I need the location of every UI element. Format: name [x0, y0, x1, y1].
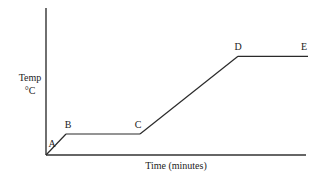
- point-label-b: B: [65, 119, 72, 130]
- x-axis-label: Time (minutes): [145, 160, 207, 172]
- point-label-c: C: [135, 119, 142, 130]
- segment-c-d: [140, 56, 238, 134]
- point-label-a: A: [48, 138, 56, 149]
- y-axis-label-line-1: Temp: [19, 72, 42, 83]
- point-label-e: E: [301, 41, 307, 52]
- point-label-d: D: [234, 41, 241, 52]
- heating-curve-chart: Temp °C Time (minutes) ABCDE: [0, 0, 320, 180]
- series-layer: ABCDE: [46, 41, 308, 155]
- y-axis-label-line-2: °C: [25, 85, 36, 96]
